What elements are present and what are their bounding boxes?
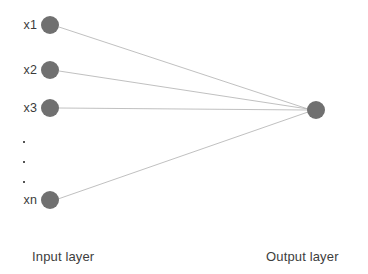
ellipsis-dot-3 <box>23 181 25 183</box>
input-layer-nodes <box>41 16 59 209</box>
output-layer-caption: Output layer <box>266 250 339 263</box>
node-label-xn: xn <box>24 194 37 207</box>
input-node-xn[interactable] <box>41 191 59 209</box>
output-layer-nodes <box>307 101 325 119</box>
neural-network-diagram: x1 x2 x3 xn Input layer Output layer <box>0 0 368 274</box>
edge-xn-to-output <box>58 112 308 199</box>
ellipsis-dot-2 <box>23 161 25 163</box>
ellipsis-dot-1 <box>23 141 25 143</box>
network-canvas <box>0 0 368 274</box>
input-node-x1[interactable] <box>41 16 59 34</box>
node-label-x1: x1 <box>24 19 37 32</box>
output-node[interactable] <box>307 101 325 119</box>
input-layer-caption: Input layer <box>32 250 94 263</box>
edge-x1-to-output <box>59 27 308 109</box>
input-node-x3[interactable] <box>41 99 59 117</box>
node-label-x2: x2 <box>24 64 37 77</box>
input-node-x2[interactable] <box>41 61 59 79</box>
edges-group <box>58 27 308 199</box>
node-label-x3: x3 <box>24 102 37 115</box>
edge-x3-to-output <box>59 108 308 110</box>
edge-x2-to-output <box>59 71 308 109</box>
